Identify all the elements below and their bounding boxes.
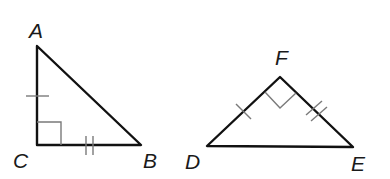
vertex-label-d: D [185, 150, 200, 173]
triangle-abc: A B C [13, 19, 157, 172]
diagram-canvas: A B C D E F [0, 0, 390, 179]
right-angle-mark-c [37, 122, 61, 145]
triangle-abc-outline [37, 46, 141, 145]
vertex-label-a: A [27, 19, 43, 42]
right-angle-mark-f [265, 92, 296, 108]
triangle-def: D E F [185, 46, 366, 175]
triangle-def-outline [207, 77, 353, 147]
vertex-label-f: F [275, 46, 289, 69]
vertex-label-b: B [143, 149, 157, 172]
vertex-label-e: E [351, 152, 366, 175]
vertex-label-c: C [13, 149, 29, 172]
